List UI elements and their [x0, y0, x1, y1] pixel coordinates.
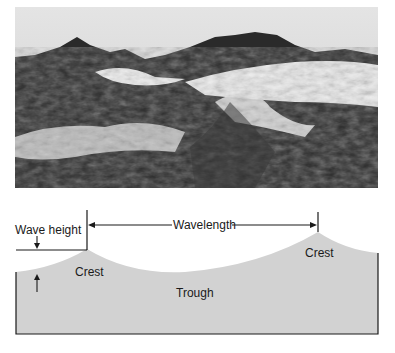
- wave-anatomy-diagram: Wave height Wavelength Crest Crest Troug…: [0, 190, 395, 353]
- ocean-waves-photo: [15, 7, 378, 188]
- crest-left-label: Crest: [75, 266, 104, 278]
- trough-label: Trough: [176, 287, 214, 299]
- wave-height-label: Wave height: [15, 224, 81, 236]
- wavelength-arrow-right-icon: [310, 222, 317, 228]
- wavelength-arrow-left-icon: [88, 222, 95, 228]
- wavelength-label: Wavelength: [173, 219, 236, 231]
- crest-right-label: Crest: [305, 247, 334, 259]
- wave-profile-graphic: [0, 190, 395, 353]
- ocean-waves-photo-image: [15, 7, 378, 188]
- wave-height-arrow-down-icon: [34, 243, 40, 249]
